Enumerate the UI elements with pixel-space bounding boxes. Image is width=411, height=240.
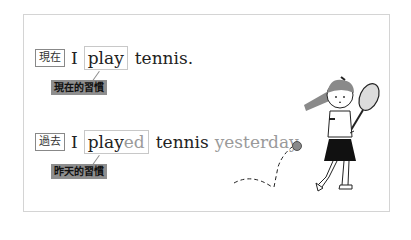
object-word: tennis xyxy=(156,132,209,152)
verb-box-present: play xyxy=(84,46,128,70)
object-word: tennis. xyxy=(135,48,193,68)
verb-box-past: played xyxy=(84,130,149,154)
note-past-habit: 昨天的習慣 xyxy=(51,164,107,179)
tennis-ball-icon xyxy=(293,142,302,151)
tense-tag-present: 現在 xyxy=(35,49,65,67)
trajectory-icon xyxy=(234,147,292,187)
note-present-habit: 現在的習慣 xyxy=(51,80,107,95)
tennis-girl-illustration xyxy=(230,75,390,210)
subject-word: I xyxy=(71,48,78,68)
sentence-present: 現在 I play tennis. xyxy=(35,46,199,70)
verb-base: play xyxy=(88,132,124,152)
tense-tag-past: 過去 xyxy=(35,133,65,151)
subject-word: I xyxy=(71,132,78,152)
verb-base: play xyxy=(88,48,124,68)
verb-suffix: ed xyxy=(124,132,145,152)
